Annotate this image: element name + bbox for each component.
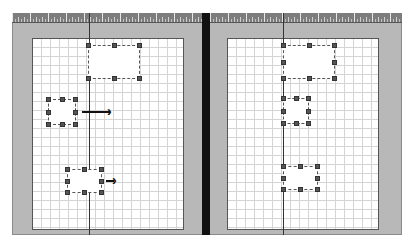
resize-handle[interactable] xyxy=(86,76,91,81)
selection-top-rect-before[interactable] xyxy=(88,45,140,79)
resize-handle[interactable] xyxy=(46,110,51,115)
resize-handle[interactable] xyxy=(73,97,78,102)
arrow-long-shaft xyxy=(82,111,110,113)
resize-handle[interactable] xyxy=(306,121,311,126)
selection-mid-rect-after[interactable] xyxy=(283,98,309,124)
resize-handle[interactable] xyxy=(281,60,286,65)
resize-handle[interactable] xyxy=(112,43,117,48)
resize-handle[interactable] xyxy=(281,96,286,101)
resize-handle[interactable] xyxy=(281,76,286,81)
resize-handle[interactable] xyxy=(46,122,51,127)
resize-handle[interactable] xyxy=(86,43,91,48)
selection-bottom-rect-after[interactable] xyxy=(283,166,318,190)
resize-handle[interactable] xyxy=(306,96,311,101)
resize-handle[interactable] xyxy=(294,96,299,101)
resize-handle[interactable] xyxy=(315,176,320,181)
resize-handle[interactable] xyxy=(112,76,117,81)
resize-handle[interactable] xyxy=(73,122,78,127)
arrow-right-icon: › xyxy=(107,104,112,118)
resize-handle[interactable] xyxy=(73,110,78,115)
resize-handle[interactable] xyxy=(60,97,65,102)
resize-handle[interactable] xyxy=(315,164,320,169)
resize-handle[interactable] xyxy=(332,60,337,65)
resize-handle[interactable] xyxy=(99,179,104,184)
selection-bottom-rect-before[interactable] xyxy=(67,169,102,193)
resize-handle[interactable] xyxy=(65,179,70,184)
resize-handle[interactable] xyxy=(315,187,320,192)
resize-handle[interactable] xyxy=(332,76,337,81)
resize-handle[interactable] xyxy=(281,121,286,126)
resize-handle[interactable] xyxy=(298,164,303,169)
resize-handle[interactable] xyxy=(99,190,104,195)
resize-handle[interactable] xyxy=(306,109,311,114)
resize-handle[interactable] xyxy=(307,43,312,48)
resize-handle[interactable] xyxy=(137,43,142,48)
resize-handle[interactable] xyxy=(332,43,337,48)
resize-handle[interactable] xyxy=(281,109,286,114)
resize-handle[interactable] xyxy=(281,43,286,48)
arrow-right-icon: › xyxy=(112,173,117,187)
resize-handle[interactable] xyxy=(307,76,312,81)
resize-handle[interactable] xyxy=(82,190,87,195)
selection-mid-rect-before[interactable] xyxy=(48,99,76,125)
resize-handle[interactable] xyxy=(99,167,104,172)
resize-handle[interactable] xyxy=(65,190,70,195)
resize-handle[interactable] xyxy=(60,122,65,127)
selection-top-rect-after[interactable] xyxy=(283,45,335,79)
resize-handle[interactable] xyxy=(46,97,51,102)
resize-handle[interactable] xyxy=(65,167,70,172)
resize-handle[interactable] xyxy=(281,176,286,181)
resize-handle[interactable] xyxy=(281,164,286,169)
resize-handle[interactable] xyxy=(294,121,299,126)
resize-handle[interactable] xyxy=(137,76,142,81)
resize-handle[interactable] xyxy=(82,167,87,172)
resize-handle[interactable] xyxy=(281,187,286,192)
panel-divider xyxy=(202,13,210,235)
resize-handle[interactable] xyxy=(298,187,303,192)
